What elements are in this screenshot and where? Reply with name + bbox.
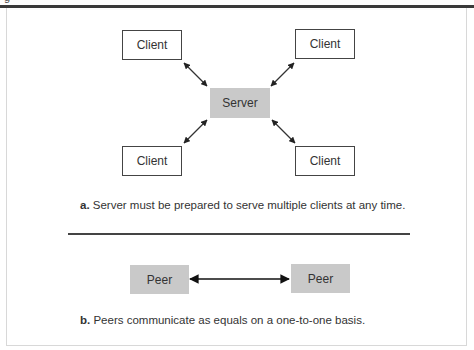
server-box: Server [210,88,270,118]
client-box-top-right: Client [295,29,355,59]
caption-b-letter: b. [80,314,90,326]
arrow-client-tl-server [184,63,207,86]
peer-box-left: Peer [130,265,189,294]
caption-a-letter: a. [80,199,90,211]
client-label: Client [310,154,341,168]
arrow-client-bl-server [184,120,207,143]
panel-separator [68,233,410,235]
peer-box-right: Peer [291,264,350,293]
client-label: Client [137,38,168,52]
client-box-bottom-left: Client [122,146,182,176]
client-box-bottom-right: Client [295,146,355,176]
arrow-client-br-server [272,120,295,143]
server-label: Server [222,96,257,110]
connection-arrows [0,0,474,350]
client-label: Client [310,37,341,51]
caption-b-text: Peers communicate as equals on a one-to-… [90,314,365,326]
caption-a-text: Server must be prepared to serve multipl… [90,199,406,211]
peer-label: Peer [147,273,172,287]
arrow-client-tr-server [271,63,294,86]
caption-a: a. Server must be prepared to serve mult… [80,199,405,211]
client-box-top-left: Client [122,30,182,60]
peer-label: Peer [308,272,333,286]
client-label: Client [137,154,168,168]
caption-b: b. Peers communicate as equals on a one-… [80,314,365,326]
